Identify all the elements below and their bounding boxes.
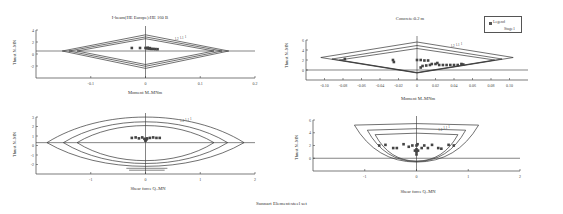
y-tick-label: -2 (24, 64, 34, 69)
data-point (139, 47, 142, 50)
curve-label: 1.2 (180, 119, 184, 123)
data-point (445, 64, 448, 67)
curve-label: 1 (185, 35, 187, 39)
y-tick-label: 0 (294, 68, 304, 73)
x-tick-label: 0 (145, 81, 147, 86)
x-tick-label: -0.1 (88, 81, 94, 86)
y-tick-label: 0 (24, 143, 34, 148)
y-tick-label: 4 (24, 28, 34, 33)
y-tick-label: -1 (24, 153, 34, 158)
data-point (415, 153, 418, 156)
curve-label: 1.1 (185, 118, 189, 122)
data-point (145, 138, 148, 141)
data-point (420, 147, 423, 150)
legend-marker-icon (489, 22, 492, 25)
x-tick-label: 0.08 (488, 83, 495, 88)
data-point (423, 144, 426, 147)
data-point (447, 144, 450, 147)
data-point (131, 137, 134, 140)
curve-label: 1.2 (451, 44, 455, 48)
chart-beam-moment: I-beam(HE Europe):HE 160 B 1.21.11 Thrus… (0, 0, 280, 107)
data-point (155, 137, 158, 140)
y-tick-label: 1 (24, 134, 34, 139)
x-tick-label: -0.02 (394, 83, 402, 88)
x-axis-label: Moment M–MNm (388, 96, 448, 101)
curve-label: 1.1 (456, 43, 460, 47)
data-point (442, 64, 445, 67)
legend-entry: Stage1 (504, 26, 515, 31)
y-tick-label: 2 (24, 124, 34, 129)
data-point (427, 59, 430, 62)
curve-label: 1.2 (438, 128, 442, 132)
data-point (452, 144, 455, 147)
x-tick-label: 0.10 (506, 83, 513, 88)
legend: Legend Stage1 (484, 16, 522, 33)
data-point (456, 64, 459, 67)
curve-label: 1.1 (180, 36, 184, 40)
x-tick-label: -1 (363, 174, 366, 179)
y-tick-label: 3 (24, 115, 34, 120)
x-axis-label: Shear force Q–MN (388, 189, 448, 194)
x-tick-label: 0.04 (451, 83, 458, 88)
x-tick-label: 0.02 (432, 83, 439, 88)
x-tick-label: 2 (254, 177, 256, 182)
data-point (431, 63, 434, 66)
data-point (423, 59, 426, 62)
data-point (411, 144, 414, 147)
y-tick-label: 0 (24, 52, 34, 57)
x-tick-label: 0.2 (253, 81, 258, 86)
plot-area: 1.21.11 (0, 107, 280, 214)
x-tick-label: 0.1 (198, 81, 203, 86)
x-tick-label: 0.06 (469, 83, 476, 88)
data-point (419, 59, 422, 62)
data-point (421, 65, 424, 68)
y-tick-label: 2 (294, 58, 304, 63)
y-axis-label: Thrust N–MN (294, 128, 299, 168)
y-tick-label: 2 (24, 40, 34, 45)
y-tick-label: 4 (301, 130, 311, 135)
data-point (440, 147, 443, 150)
data-point (392, 147, 395, 150)
data-point (152, 136, 155, 139)
data-point (138, 137, 141, 140)
y-axis-label: Thrust N–MN (284, 36, 289, 76)
x-tick-label: 1 (199, 177, 201, 182)
plot-area: 1.21.11 (280, 107, 563, 214)
data-point (149, 47, 152, 50)
x-tick-label: 0 (416, 83, 418, 88)
x-axis-label: Moment M–MNm (115, 90, 175, 95)
chart-beam-shear: 1.21.11 Thrust N–MN Shear force Q–MN -10… (0, 107, 280, 214)
curve-label: 1 (190, 117, 192, 121)
x-axis-label: Shear force Q–MN (118, 186, 178, 191)
data-point (393, 61, 396, 64)
y-tick-label: 0 (301, 156, 311, 161)
data-point (437, 147, 440, 150)
data-point (407, 145, 410, 148)
x-tick-label: -0.04 (376, 83, 384, 88)
curve-label: 1 (448, 125, 450, 129)
x-tick-label: -0.08 (339, 83, 347, 88)
chart-concrete-shear: 1.21.11 Thrust N–MN Shear force Q–MN -10… (280, 107, 563, 214)
data-point (134, 136, 137, 139)
curve-label: 1.2 (175, 37, 179, 41)
data-point (149, 137, 152, 140)
data-point (384, 144, 387, 147)
data-point (462, 63, 465, 66)
x-tick-label: 1 (467, 174, 469, 179)
data-point (417, 149, 420, 152)
y-tick-label: -2 (24, 162, 34, 167)
data-point (378, 144, 381, 147)
data-point (344, 58, 347, 61)
figure-caption: Sunnart Element:steel set (0, 201, 563, 206)
data-point (453, 64, 456, 67)
data-point (158, 137, 161, 140)
x-tick-label: -1 (89, 177, 92, 182)
y-tick-label: 6 (301, 118, 311, 123)
data-point (427, 147, 430, 150)
x-tick-label: 2 (519, 174, 521, 179)
data-point (131, 47, 134, 50)
y-tick-label: 6 (294, 38, 304, 43)
data-point (402, 143, 405, 146)
data-point (425, 64, 428, 67)
data-point (414, 149, 417, 152)
